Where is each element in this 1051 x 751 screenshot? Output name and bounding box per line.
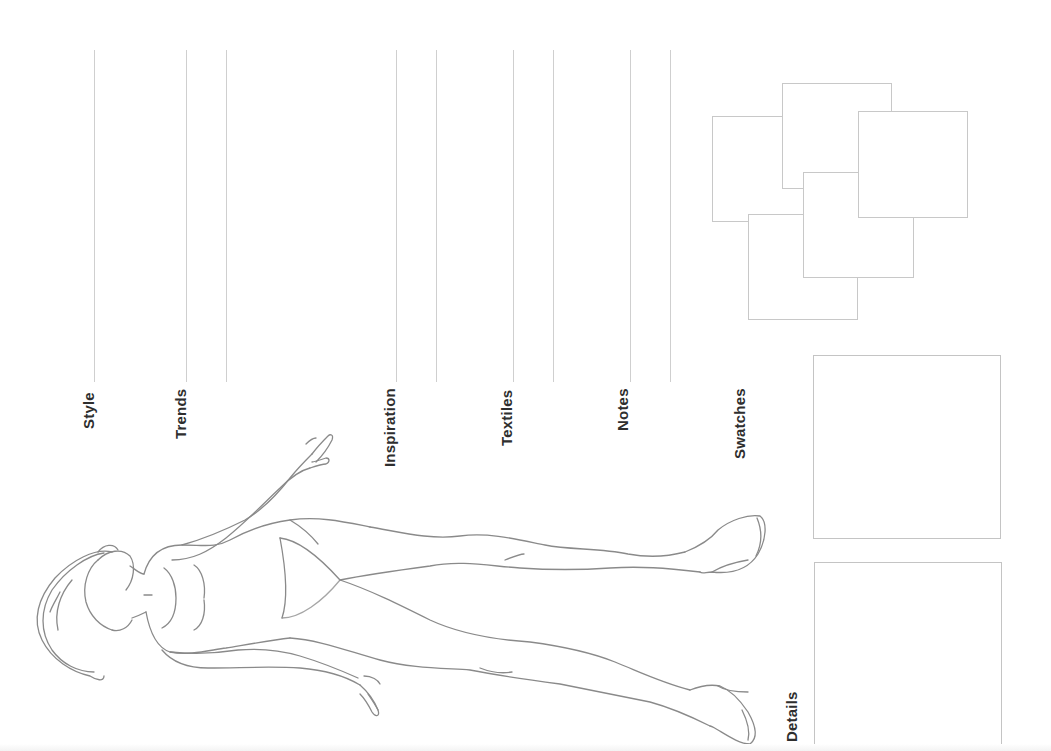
inspiration-line-1[interactable] xyxy=(396,50,397,382)
detail-box-1[interactable] xyxy=(813,355,1001,539)
notes-label: Notes xyxy=(614,388,631,431)
inspiration-line-2[interactable] xyxy=(436,50,437,382)
swatches-label: Swatches xyxy=(731,388,748,459)
swatch-box-5[interactable] xyxy=(858,111,968,218)
trends-line-1[interactable] xyxy=(186,50,187,382)
croquis-sheet: Style Trends Inspiration Textiles Notes … xyxy=(0,0,1051,751)
trends-label: Trends xyxy=(172,389,189,439)
trends-line-2[interactable] xyxy=(226,50,227,382)
style-line-1[interactable] xyxy=(94,50,95,382)
notes-line-2[interactable] xyxy=(670,50,671,382)
textiles-label: Textiles xyxy=(498,390,515,446)
detail-box-2[interactable] xyxy=(814,562,1002,745)
style-label: Style xyxy=(80,392,97,429)
textiles-line-1[interactable] xyxy=(513,50,514,382)
details-label: Details xyxy=(783,691,800,742)
notes-line-1[interactable] xyxy=(630,50,631,382)
inspiration-label: Inspiration xyxy=(381,388,398,467)
textiles-line-2[interactable] xyxy=(553,50,554,382)
page-bottom-edge xyxy=(0,744,1051,751)
